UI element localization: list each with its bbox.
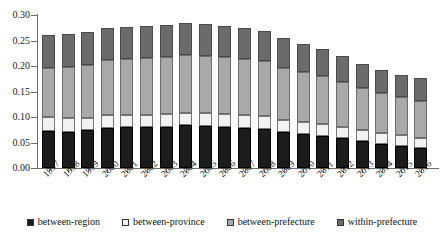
bar-segment-between-prefecture[interactable]	[199, 56, 212, 114]
y-axis-tick	[31, 143, 37, 144]
legend-item-between-province[interactable]: between-province	[122, 217, 205, 227]
bar-segment-between-prefecture[interactable]	[297, 72, 310, 122]
bar-segment-within-prefecture[interactable]	[316, 49, 329, 76]
bar-2008[interactable]	[258, 31, 271, 168]
legend-item-within-prefecture[interactable]: within-prefecture	[337, 217, 417, 227]
bar-2003[interactable]	[160, 25, 173, 168]
bar-segment-between-prefecture[interactable]	[140, 58, 153, 115]
y-axis-tick	[31, 41, 37, 42]
bar-segment-within-prefecture[interactable]	[258, 31, 271, 62]
bar-segment-between-province[interactable]	[414, 138, 427, 148]
bar-segment-between-prefecture[interactable]	[81, 65, 94, 118]
bar-segment-between-prefecture[interactable]	[62, 67, 75, 118]
y-axis-tick	[31, 92, 37, 93]
bar-2012[interactable]	[336, 56, 349, 168]
bar-2011[interactable]	[316, 49, 329, 168]
bar-segment-between-province[interactable]	[179, 113, 192, 125]
bar-segment-between-province[interactable]	[258, 116, 271, 129]
bar-segment-between-prefecture[interactable]	[414, 101, 427, 138]
bar-2015[interactable]	[395, 75, 408, 168]
bar-2010[interactable]	[297, 44, 310, 168]
bar-segment-within-prefecture[interactable]	[179, 23, 192, 55]
bar-segment-between-prefecture[interactable]	[316, 76, 329, 124]
y-axis-label: 0.30	[0, 10, 30, 20]
y-axis-label: 0.05	[0, 138, 30, 148]
bar-2002[interactable]	[140, 26, 153, 168]
bar-segment-between-prefecture[interactable]	[356, 88, 369, 130]
chart-legend: between-regionbetween-provincebetween-pr…	[0, 213, 444, 231]
bar-2000[interactable]	[101, 28, 114, 168]
legend-label: between-prefecture	[238, 217, 315, 227]
bar-segment-within-prefecture[interactable]	[414, 78, 427, 100]
bar-segment-within-prefecture[interactable]	[120, 27, 133, 59]
bar-segment-between-prefecture[interactable]	[277, 68, 290, 120]
bar-segment-within-prefecture[interactable]	[140, 26, 153, 58]
bar-segment-between-prefecture[interactable]	[101, 60, 114, 115]
bar-segment-between-prefecture[interactable]	[218, 57, 231, 114]
bar-2009[interactable]	[277, 38, 290, 168]
y-axis-label: 0.20	[0, 61, 30, 71]
bar-segment-between-province[interactable]	[120, 115, 133, 127]
bar-segment-within-prefecture[interactable]	[336, 56, 349, 82]
bar-segment-within-prefecture[interactable]	[42, 35, 55, 68]
legend-item-between-prefecture[interactable]: between-prefecture	[227, 217, 315, 227]
bar-2001[interactable]	[120, 27, 133, 168]
bar-2005[interactable]	[199, 24, 212, 168]
y-axis-tick	[31, 15, 37, 16]
legend-item-between-region[interactable]: between-region	[27, 217, 100, 227]
bar-segment-between-province[interactable]	[160, 114, 173, 126]
bar-segment-within-prefecture[interactable]	[238, 28, 251, 59]
bar-2007[interactable]	[238, 28, 251, 168]
bar-segment-between-province[interactable]	[101, 115, 114, 127]
bar-segment-within-prefecture[interactable]	[81, 32, 94, 65]
bar-segment-between-province[interactable]	[395, 135, 408, 146]
bar-segment-between-province[interactable]	[277, 120, 290, 132]
bar-segment-between-province[interactable]	[81, 118, 94, 131]
white-square-icon	[122, 219, 129, 226]
bar-segment-between-province[interactable]	[42, 117, 55, 131]
bar-segment-within-prefecture[interactable]	[199, 24, 212, 56]
light-gray-square-icon	[227, 219, 234, 226]
bar-2014[interactable]	[375, 70, 388, 168]
bar-1998[interactable]	[62, 34, 75, 168]
bar-segment-within-prefecture[interactable]	[356, 64, 369, 88]
bar-segment-between-prefecture[interactable]	[160, 57, 173, 114]
bar-segment-within-prefecture[interactable]	[160, 25, 173, 57]
bar-segment-between-prefecture[interactable]	[258, 61, 271, 116]
bar-segment-between-province[interactable]	[375, 133, 388, 144]
bar-2006[interactable]	[218, 26, 231, 168]
bar-segment-within-prefecture[interactable]	[395, 75, 408, 97]
bar-segment-between-province[interactable]	[199, 113, 212, 126]
bar-segment-within-prefecture[interactable]	[101, 28, 114, 60]
bar-segment-between-prefecture[interactable]	[336, 82, 349, 127]
y-axis-label: 0.25	[0, 36, 30, 46]
legend-label: between-region	[38, 217, 100, 227]
bar-segment-within-prefecture[interactable]	[218, 26, 231, 58]
bar-segment-between-prefecture[interactable]	[395, 97, 408, 135]
bar-segment-between-province[interactable]	[316, 124, 329, 136]
bar-1997[interactable]	[42, 35, 55, 168]
bar-segment-between-province[interactable]	[238, 115, 251, 128]
bar-segment-between-province[interactable]	[336, 127, 349, 138]
bar-1999[interactable]	[81, 32, 94, 168]
bar-segment-within-prefecture[interactable]	[62, 34, 75, 67]
bar-2013[interactable]	[356, 64, 369, 168]
bar-2016[interactable]	[414, 78, 427, 168]
bar-segment-within-prefecture[interactable]	[375, 70, 388, 93]
black-square-icon	[27, 219, 34, 226]
bar-segment-between-province[interactable]	[140, 115, 153, 127]
bar-segment-between-prefecture[interactable]	[238, 59, 251, 115]
bar-segment-between-prefecture[interactable]	[42, 68, 55, 117]
bar-segment-between-province[interactable]	[356, 130, 369, 141]
bar-segment-within-prefecture[interactable]	[297, 44, 310, 72]
bar-segment-between-prefecture[interactable]	[120, 59, 133, 115]
dark-gray-square-icon	[337, 219, 344, 226]
bar-segment-between-prefecture[interactable]	[179, 55, 192, 113]
bar-segment-between-province[interactable]	[62, 118, 75, 132]
bar-segment-between-province[interactable]	[218, 114, 231, 127]
legend-label: between-province	[133, 217, 205, 227]
bar-segment-between-prefecture[interactable]	[375, 93, 388, 133]
bar-segment-between-province[interactable]	[297, 122, 310, 134]
bar-2004[interactable]	[179, 23, 192, 168]
bar-segment-within-prefecture[interactable]	[277, 38, 290, 67]
